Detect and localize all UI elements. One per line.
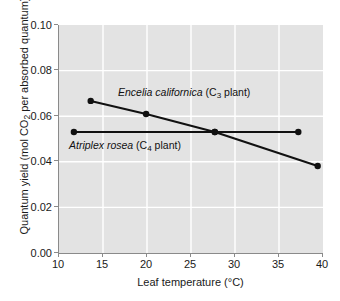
x-tick-label: 30 — [214, 258, 254, 270]
y-axis-title-subscript: 2 — [22, 115, 32, 120]
series-label-encelia-californica: Encelia californica (C3 plant) — [118, 86, 250, 98]
series-label-atriplex-subscript: 4 — [147, 144, 152, 153]
x-tick-mark — [146, 253, 147, 257]
x-tick-mark — [234, 253, 235, 257]
x-tick-mark — [102, 253, 103, 257]
y-tick-label: 0.10 — [31, 18, 58, 32]
y-tick-label: 0.06 — [31, 109, 58, 123]
x-tick-label: 10 — [38, 258, 78, 270]
series-atriplex-rosea — [71, 129, 302, 135]
x-axis-title: Leaf temperature (°C) — [58, 276, 323, 288]
series-label-atriplex-binomial: Atriplex rosea — [69, 139, 133, 151]
y-tick-label: 0.08 — [31, 63, 58, 77]
x-tick-mark — [58, 253, 59, 257]
x-tick-mark — [278, 253, 279, 257]
y-axis-title: Quantum yield (mol CO2 per absorbed quan… — [18, 0, 30, 236]
series-label-atriplex-rosea: Atriplex rosea (C4 plant) — [69, 139, 181, 151]
series-label-encelia-binomial: Encelia californica — [118, 86, 203, 98]
x-tick-label: 20 — [126, 258, 166, 270]
y-tick-label: 0.04 — [31, 154, 58, 168]
series-label-encelia-pre: (C — [203, 86, 217, 98]
series-label-atriplex-pre: (C — [133, 139, 147, 151]
x-tick-label: 25 — [170, 258, 210, 270]
x-tick-mark — [322, 253, 323, 257]
chart-figure: 0.10 0.08 0.06 0.04 0.02 0.00 Quantum yi… — [0, 0, 340, 301]
x-tick-label: 40 — [302, 258, 340, 270]
y-tick-label: 0.02 — [31, 200, 58, 214]
y-axis-title-pre: Quantum yield (mol CO — [18, 120, 30, 235]
x-axis: 10 15 20 25 30 35 40 — [58, 254, 323, 274]
x-tick-mark — [190, 253, 191, 257]
series-label-encelia-subscript: 3 — [217, 91, 222, 100]
series-label-atriplex-post: plant) — [152, 139, 181, 151]
y-axis-title-post: per absorbed quantum) — [18, 0, 30, 115]
x-tick-label: 15 — [82, 258, 122, 270]
series-label-encelia-post: plant) — [221, 86, 250, 98]
series-encelia-californica — [88, 98, 321, 169]
x-tick-label: 35 — [258, 258, 298, 270]
